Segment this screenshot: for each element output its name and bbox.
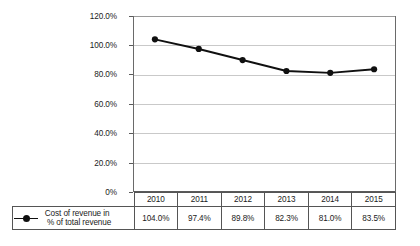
table-value-2011: 97.4% [178, 207, 222, 230]
series-line [155, 39, 374, 73]
data-point-2010 [152, 36, 158, 42]
table-header-2011: 2011 [178, 193, 222, 207]
table-value-2010: 104.0% [134, 207, 178, 230]
series-markers [152, 36, 377, 76]
data-table: 2010 2011 2012 2013 2014 2015 Cost of re… [12, 192, 396, 230]
table-value-row: Cost of revenue in % of total revenue 10… [13, 207, 396, 230]
table-value-2015: 83.5% [352, 207, 396, 230]
table-value-2014: 81.0% [308, 207, 352, 230]
data-point-2012 [239, 57, 245, 63]
data-point-2013 [283, 68, 289, 74]
table-header-2013: 2013 [265, 193, 309, 207]
table-header-2014: 2014 [308, 193, 352, 207]
table-value-2013: 82.3% [265, 207, 309, 230]
legend-entry: Cost of revenue in % of total revenue [13, 207, 135, 230]
table-header-2012: 2012 [221, 193, 265, 207]
legend-label-line2: % of total revenue [43, 218, 111, 228]
table-header-row: 2010 2011 2012 2013 2014 2015 [13, 193, 396, 207]
legend-line-marker-icon [13, 212, 39, 224]
table-value-2012: 89.8% [221, 207, 265, 230]
legend-spacer [13, 193, 135, 207]
legend-label-line1: Cost of revenue in [45, 209, 110, 218]
table-header-2010: 2010 [134, 193, 178, 207]
data-point-2015 [371, 66, 377, 72]
data-point-2011 [196, 46, 202, 52]
line-chart: 120.0% 100.0% 80.0% 60.0% 40.0% 20.0% 0%… [0, 0, 420, 246]
legend-label: Cost of revenue in % of total revenue [43, 209, 111, 228]
data-point-2014 [327, 70, 333, 76]
table-header-2015: 2015 [352, 193, 396, 207]
